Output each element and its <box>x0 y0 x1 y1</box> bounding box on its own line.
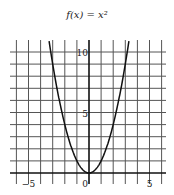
x-tick-label: 0 <box>82 179 88 189</box>
plot-area: −505510 <box>0 0 174 195</box>
y-tick-label: 5 <box>82 109 88 119</box>
x-tick-label: 5 <box>147 179 153 189</box>
x-tick-label: −5 <box>22 179 36 189</box>
y-tick-label: 10 <box>77 48 89 58</box>
